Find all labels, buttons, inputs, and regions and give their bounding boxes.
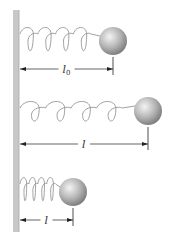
- mass-ball: [99, 27, 127, 55]
- length-label: l: [45, 214, 49, 227]
- spring: [20, 177, 60, 200]
- panel-natural-length: l0: [20, 27, 127, 77]
- mass-ball: [134, 97, 162, 125]
- spring: [20, 101, 135, 121]
- panel-stretched: l: [20, 97, 162, 151]
- spring: [20, 27, 100, 50]
- panel-compressed: l: [20, 177, 87, 227]
- length-label: l0: [63, 63, 71, 77]
- length-label: l: [82, 138, 86, 151]
- spring-diagram: l0ll: [0, 0, 172, 243]
- wall: [13, 10, 19, 232]
- mass-ball: [59, 178, 87, 206]
